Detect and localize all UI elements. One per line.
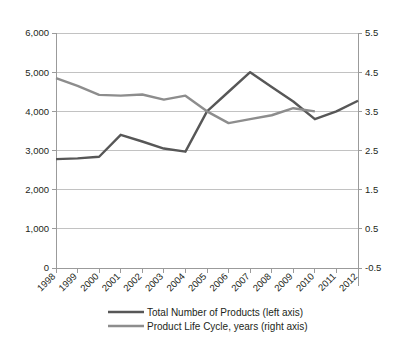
legend-label-1: Total Number of Products (left axis) bbox=[147, 307, 303, 318]
right-axis-tick-label: -0.5 bbox=[365, 262, 381, 273]
right-axis-tick-label: 1.5 bbox=[365, 184, 378, 195]
chart-container: 01,0002,0003,0004,0005,0006,000 -0.50.51… bbox=[0, 0, 401, 346]
left-axis-tick-label: 1,000 bbox=[25, 223, 49, 234]
right-axis-tick-label: 4.5 bbox=[365, 67, 378, 78]
x-axis-tick-label: 2000 bbox=[78, 271, 101, 294]
x-axis-tick-label: 2006 bbox=[207, 271, 230, 294]
right-axis-tick-label: 5.5 bbox=[365, 27, 378, 38]
left-axis-tick-label: 3,000 bbox=[25, 145, 49, 156]
x-axis-tick-label: 2005 bbox=[186, 271, 209, 294]
right-axis: -0.50.51.52.53.54.55.5 bbox=[358, 27, 381, 286]
x-axis-tick-label: 2004 bbox=[164, 271, 187, 294]
x-axis-tick-label: 2010 bbox=[294, 271, 317, 294]
x-axis-tick-label: 2007 bbox=[229, 271, 252, 294]
x-axis-tick-label: 2012 bbox=[337, 271, 360, 294]
x-axis: 1998199920002001200220032004200520062007… bbox=[35, 268, 360, 293]
series-line-1 bbox=[56, 72, 358, 159]
left-axis-tick-label: 2,000 bbox=[25, 184, 49, 195]
x-axis-tick-label: 2009 bbox=[272, 271, 295, 294]
right-axis-tick-label: 2.5 bbox=[365, 145, 378, 156]
series-line-2 bbox=[56, 78, 315, 123]
legend-label-2: Product Life Cycle, years (right axis) bbox=[147, 321, 308, 332]
left-axis-tick-label: 5,000 bbox=[25, 67, 49, 78]
x-axis-tick-label: 1998 bbox=[35, 271, 58, 294]
chart-legend: Total Number of Products (left axis)Prod… bbox=[108, 307, 308, 332]
left-axis: 01,0002,0003,0004,0005,0006,000 bbox=[25, 27, 56, 273]
right-axis-tick-label: 3.5 bbox=[365, 106, 378, 117]
x-axis-tick-label: 1999 bbox=[56, 271, 79, 294]
x-axis-tick-label: 2002 bbox=[121, 271, 144, 294]
x-axis-tick-label: 2003 bbox=[143, 271, 166, 294]
left-axis-tick-label: 6,000 bbox=[25, 27, 49, 38]
series-lines bbox=[56, 72, 358, 159]
x-axis-tick-label: 2008 bbox=[250, 271, 273, 294]
gridlines bbox=[56, 33, 358, 268]
x-axis-tick-label: 2001 bbox=[99, 271, 122, 294]
x-axis-tick-label: 2011 bbox=[316, 271, 338, 293]
line-chart: 01,0002,0003,0004,0005,0006,000 -0.50.51… bbox=[0, 0, 401, 346]
left-axis-tick-label: 4,000 bbox=[25, 106, 49, 117]
right-axis-tick-label: 0.5 bbox=[365, 223, 378, 234]
